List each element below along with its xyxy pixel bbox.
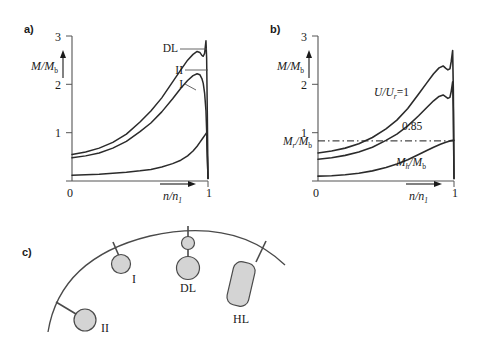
panel-b-curve-mh (318, 140, 454, 176)
panel-b-tag: b) (270, 23, 280, 35)
panel-c-schematic: I DL HL II (0, 210, 493, 347)
panel-a-x-arrow-icon (160, 181, 196, 187)
panel-a-x-axis-label: n/n1 (163, 189, 182, 205)
panel-b-ytick-2: 2 (301, 78, 307, 92)
panel-b-x-axis-label: n/n1 (409, 189, 428, 205)
panel-c-tag: c) (22, 246, 32, 258)
panel-a-curve-dl (72, 41, 208, 179)
panel-a-y-axis-label: M/Mb (30, 59, 58, 75)
panel-a-curve-i (72, 133, 208, 179)
panel-b-label-mh: Mh/Mb (395, 156, 426, 171)
panel-b-y-arrow-icon (306, 50, 312, 78)
panel-b-chart: 1 2 3 0 1 M/Mb n/n1 Mr/Mb U/Ur=1 (246, 0, 493, 210)
figure-root: a) 1 2 3 0 1 M/Mb (0, 0, 493, 347)
damper-HL: HL (225, 241, 266, 326)
panel-a-y-arrow-icon (60, 50, 66, 78)
panel-a-chart: 1 2 3 0 1 M/Mb n/n1 DL (0, 0, 246, 210)
panel-b-xtick-1: 1 (452, 186, 458, 200)
panel-b-x-arrow-icon (406, 181, 442, 187)
damper-II-label: II (101, 321, 109, 335)
panel-a-xtick-0: 0 (67, 186, 73, 200)
panel-b-curve-u1 (318, 51, 454, 179)
damper-I: I (112, 242, 137, 286)
panel-b-ytick-3: 3 (301, 30, 307, 44)
panel-a-ytick-3: 3 (55, 30, 61, 44)
panel-a-label-ii: II (175, 64, 183, 76)
panel-b: b) 1 2 3 0 1 M/Mb n/n1 (246, 0, 493, 210)
panel-a-label-dl: DL (163, 42, 178, 54)
panel-a-ytick-2: 2 (55, 78, 61, 92)
panel-b-label-u1: U/Ur=1 (374, 86, 409, 101)
damper-II: II (56, 302, 109, 335)
panel-b-xtick-0: 0 (313, 186, 319, 200)
panel-a-tag: a) (24, 23, 34, 35)
panel-a-ytick-1: 1 (55, 126, 61, 140)
panel-a-xtick-1: 1 (206, 186, 212, 200)
panel-a: a) 1 2 3 0 1 M/Mb (0, 0, 246, 210)
panel-c: c) I DL HL (0, 210, 493, 347)
panel-a-leader-i (185, 84, 196, 90)
panel-a-label-i: I (179, 78, 183, 90)
damper-DL: DL (177, 226, 200, 295)
damper-HL-label: HL (233, 312, 249, 326)
panel-b-label-u085: 0.85 (402, 120, 422, 132)
panel-a-curve-ii (72, 74, 208, 179)
panel-b-label-mr: Mr/Mb (282, 135, 312, 150)
damper-DL-label: DL (180, 281, 196, 295)
panel-b-y-axis-label: M/Mb (276, 59, 304, 75)
damper-I-label: I (132, 272, 136, 286)
